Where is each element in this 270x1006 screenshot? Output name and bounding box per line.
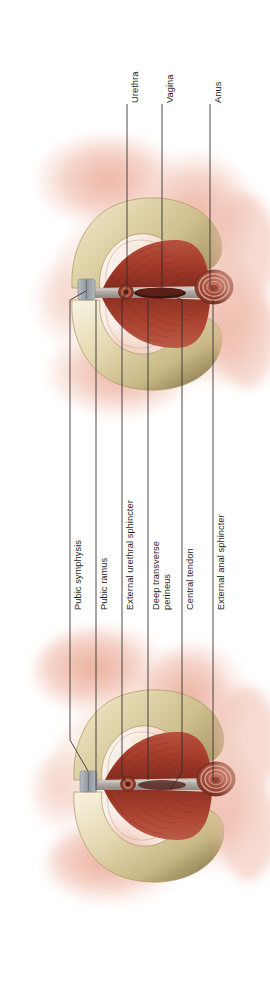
label-external-anal-sphincter-text: External anal sphincter	[216, 514, 226, 610]
upper-pubic-symphysis	[78, 279, 95, 300]
label-central-tendon-text: Central tendon	[185, 548, 195, 610]
label-deep-transverse-perineus-line2: perineus	[162, 541, 173, 610]
label-pubic-symphysis: Pubic symphysis	[73, 540, 83, 610]
label-external-urethral-sphincter-text: External urethral sphincter	[125, 500, 135, 610]
lower-pubic-symphysis	[80, 771, 97, 792]
label-vagina-text: Vagina	[165, 74, 175, 103]
upper-pelvic-view	[34, 134, 270, 416]
anatomy-plate: Urethra Vagina Anus Pubic symphysis Pubi…	[0, 0, 270, 1006]
label-central-tendon: Central tendon	[185, 548, 195, 610]
label-pubic-symphysis-text: Pubic symphysis	[73, 540, 83, 610]
label-external-urethral-sphincter: External urethral sphincter	[125, 500, 135, 610]
label-deep-transverse-perineus-line1: Deep transverse	[151, 541, 162, 610]
label-anus: Anus	[213, 82, 223, 103]
label-pubic-ramus: Pubic ramus	[99, 558, 109, 610]
lower-external-urethral-sphincter	[121, 777, 136, 792]
label-urethra-text: Urethra	[130, 72, 140, 103]
lower-pelvic-view	[32, 626, 270, 908]
label-external-anal-sphincter: External anal sphincter	[216, 514, 226, 610]
label-urethra: Urethra	[130, 72, 140, 103]
label-deep-transverse-perineus: Deep transverse perineus	[151, 541, 172, 610]
label-pubic-ramus-text: Pubic ramus	[99, 558, 109, 610]
label-anus-text: Anus	[213, 82, 223, 103]
label-vagina: Vagina	[165, 74, 175, 103]
